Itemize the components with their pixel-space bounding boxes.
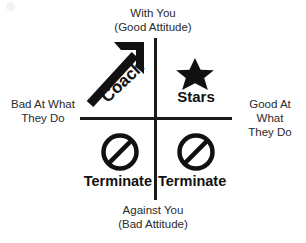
quadrant-label-terminate-left: Terminate [72,173,152,189]
axis-label-right-line3: They Do [236,125,304,139]
axis-label-left: Bad At What They Do [2,97,84,125]
quadrant-matrix-diagram: With You (Good Attitude) Against You (Ba… [0,0,306,243]
no-entry-icon [176,132,216,172]
axis-label-top-line2: (Good Attitude) [0,20,306,34]
axis-label-bottom-line2: (Bad Attitude) [0,217,306,231]
axis-label-bottom: Against You (Bad Attitude) [0,203,306,231]
axis-label-right: Good At What They Do [236,97,304,139]
axis-label-right-line2: What [236,111,304,125]
horizontal-axis-line [80,117,232,120]
axis-label-right-line1: Good At [249,98,291,110]
quadrant-label-terminate-right: Terminate [158,173,246,189]
quadrant-label-stars: Stars [166,88,226,105]
axis-label-left-line2: They Do [2,111,84,125]
axis-label-top: With You (Good Attitude) [0,6,306,34]
axis-label-top-line1: With You [130,7,175,19]
star-icon [174,58,216,90]
no-entry-icon [100,132,140,172]
axis-label-left-line1: Bad At What [11,98,75,110]
axis-label-bottom-line1: Against You [123,204,184,216]
